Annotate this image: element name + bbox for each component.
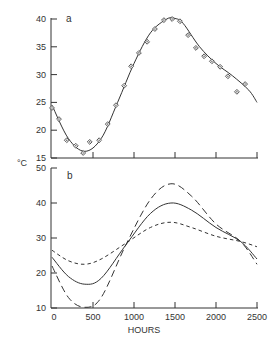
fitted-curve [52,18,257,152]
a-ytick-label: 20 [36,125,46,135]
a-ytick-label: 15 [36,153,46,163]
a-ytick-label: 30 [36,70,46,80]
panel-b-axes: 1020304050 05001000150020002500 b [36,163,267,322]
panel-a-plot [50,17,257,156]
x-axis-title: HOURS [128,325,161,335]
panel-a-label: a [66,13,72,24]
chart-figure: 152025303540 a °C 1020304050 05001000150… [0,0,280,348]
xtick-label: 2500 [247,312,267,322]
xtick-label: 1500 [165,312,185,322]
b-ytick-label: 30 [36,233,46,243]
b-ytick-label: 20 [36,268,46,278]
curve-solid [52,203,257,284]
panel-b-plot [52,184,257,308]
b-ytick-label: 40 [36,198,46,208]
b-ytick-label: 10 [36,303,46,313]
curve-short-dash [52,222,257,264]
y-axis-unit: °C [17,158,28,168]
xtick-label: 1000 [124,312,144,322]
a-ytick-label: 35 [36,42,46,52]
xtick-label: 2000 [206,312,226,322]
xtick-label: 0 [51,312,56,322]
b-ytick-label: 50 [36,163,46,173]
xtick-label: 500 [85,312,100,322]
a-ytick-label: 25 [36,97,46,107]
a-ytick-label: 40 [36,14,46,24]
panel-b-label: b [67,170,73,181]
curve-long-dash [52,184,257,308]
